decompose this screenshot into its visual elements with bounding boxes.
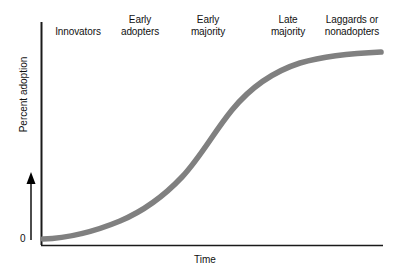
diffusion-of-innovation-chart: Innovators Early adopters Early majority… [0, 0, 399, 272]
y-axis-zero-tick-label: 0 [20, 233, 26, 244]
stage-label-laggards: Laggards or nonadopters [306, 14, 398, 37]
stage-label-early-adopters-line2: adopters [106, 26, 174, 38]
stage-label-early-majority-line2: majority [174, 26, 242, 38]
x-axis-title: Time [175, 254, 235, 265]
stage-label-early-adopters: Early adopters [106, 14, 174, 37]
stage-label-early-adopters-line1: Early [106, 14, 174, 26]
stage-label-early-majority: Early majority [174, 14, 242, 37]
stage-label-laggards-line1: Laggards or [306, 14, 398, 26]
y-axis-title: Percent adoption [18, 50, 29, 140]
y-axis-arrow-icon [27, 172, 36, 240]
adoption-curve [43, 52, 381, 239]
stage-label-early-majority-line1: Early [174, 14, 242, 26]
stage-label-laggards-line2: nonadopters [306, 26, 398, 38]
stage-label-innovators: Innovators [44, 26, 112, 38]
chart-canvas [0, 0, 399, 272]
stage-label-innovators-line1: Innovators [44, 26, 112, 38]
